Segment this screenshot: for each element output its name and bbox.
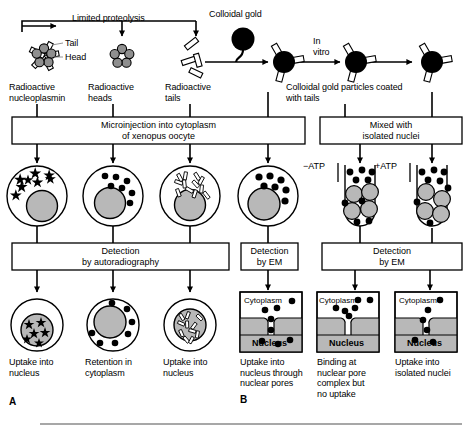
oocyte-cell-stars	[7, 166, 67, 226]
panel-b-marker: B	[240, 394, 247, 405]
em3-nucleus-label: Nucleus	[407, 338, 442, 348]
molecule-label-gold-coated: Colloidal gold particles coated with tai…	[286, 82, 402, 103]
em1-cytoplasm-label: Cytoplasm	[244, 296, 282, 305]
em3-caption: Uptake into isolated nuclei	[395, 357, 451, 378]
oocyte-cell-tails	[160, 166, 220, 226]
detection-em-label-right: Detection by EM	[322, 246, 462, 267]
em2-caption: Binding at nuclear pore complex but no u…	[317, 357, 366, 399]
gold-coated-particle-3	[419, 43, 452, 82]
em2-nucleus-label: Nucleus	[329, 338, 364, 348]
oocyte-cell-gold	[238, 166, 298, 226]
result-label-uptake-nucleus-1: Uptake into nucleus	[9, 357, 53, 378]
result-cell-retention-cytoplasm	[87, 299, 139, 351]
radioactive-heads-glyph	[110, 44, 134, 67]
result-cell-uptake-stars	[11, 299, 63, 351]
oocyte-cell-heads	[83, 166, 143, 226]
minus-atp-label: −ATP	[303, 161, 325, 171]
colloidal-gold-label: Colloidal gold	[209, 9, 262, 20]
radioactive-nucleoplasmin-glyph	[29, 42, 59, 71]
cell-to-detection-connectors	[37, 226, 432, 243]
microinjection-box-label: Microinjection into cytoplasm of xenopus…	[12, 120, 305, 141]
detection-em-label-left: Detection by EM	[241, 246, 298, 267]
molecule-label-tails: Radioactive tails	[165, 82, 211, 103]
test-tube-minus-atp	[342, 165, 379, 226]
em3-cytoplasm-label: Cytoplasm	[399, 296, 437, 305]
test-tube-plus-atp	[414, 165, 452, 226]
em2-cytoplasm-label: Cytoplasm	[319, 296, 357, 305]
result-label-retention-cytoplasm: Retention in cytoplasm	[85, 357, 132, 378]
molecule-label-heads: Radioactive heads	[88, 82, 134, 103]
gold-coated-particle-2	[343, 43, 376, 82]
colloidal-gold-particle	[232, 28, 255, 63]
em1-caption: Uptake into nucleus through nuclear pore…	[240, 357, 303, 389]
figure-root: Limited proteolysis Colloidal gold In vi…	[0, 0, 472, 431]
em1-nucleus-label: Nucleus	[252, 338, 287, 348]
result-cell-uptake-tails	[164, 299, 216, 351]
mixed-nuclei-box-label: Mixed with isolated nuclei	[320, 120, 462, 141]
in-vitro-label: In vitro	[313, 36, 330, 57]
panel-a-marker: A	[9, 396, 16, 407]
molecule-label-nucleoplasmin: Radioactive nucleoplasmin	[9, 82, 65, 103]
head-callout-label: Head	[65, 52, 86, 63]
detection-autoradiography-label: Detection by autoradiography	[12, 246, 229, 267]
tail-callout-label: Tail	[65, 38, 78, 49]
radioactive-tails-glyph	[181, 37, 203, 78]
box-to-cell-arrows	[37, 144, 432, 163]
limited-proteolysis-label: Limited proteolysis	[72, 13, 145, 24]
gold-coated-particle-1	[271, 43, 304, 82]
plus-atp-label: +ATP	[375, 161, 397, 171]
result-label-uptake-nucleus-2: Uptake into nucleus	[163, 357, 207, 378]
detection-to-result-arrows	[37, 270, 430, 292]
